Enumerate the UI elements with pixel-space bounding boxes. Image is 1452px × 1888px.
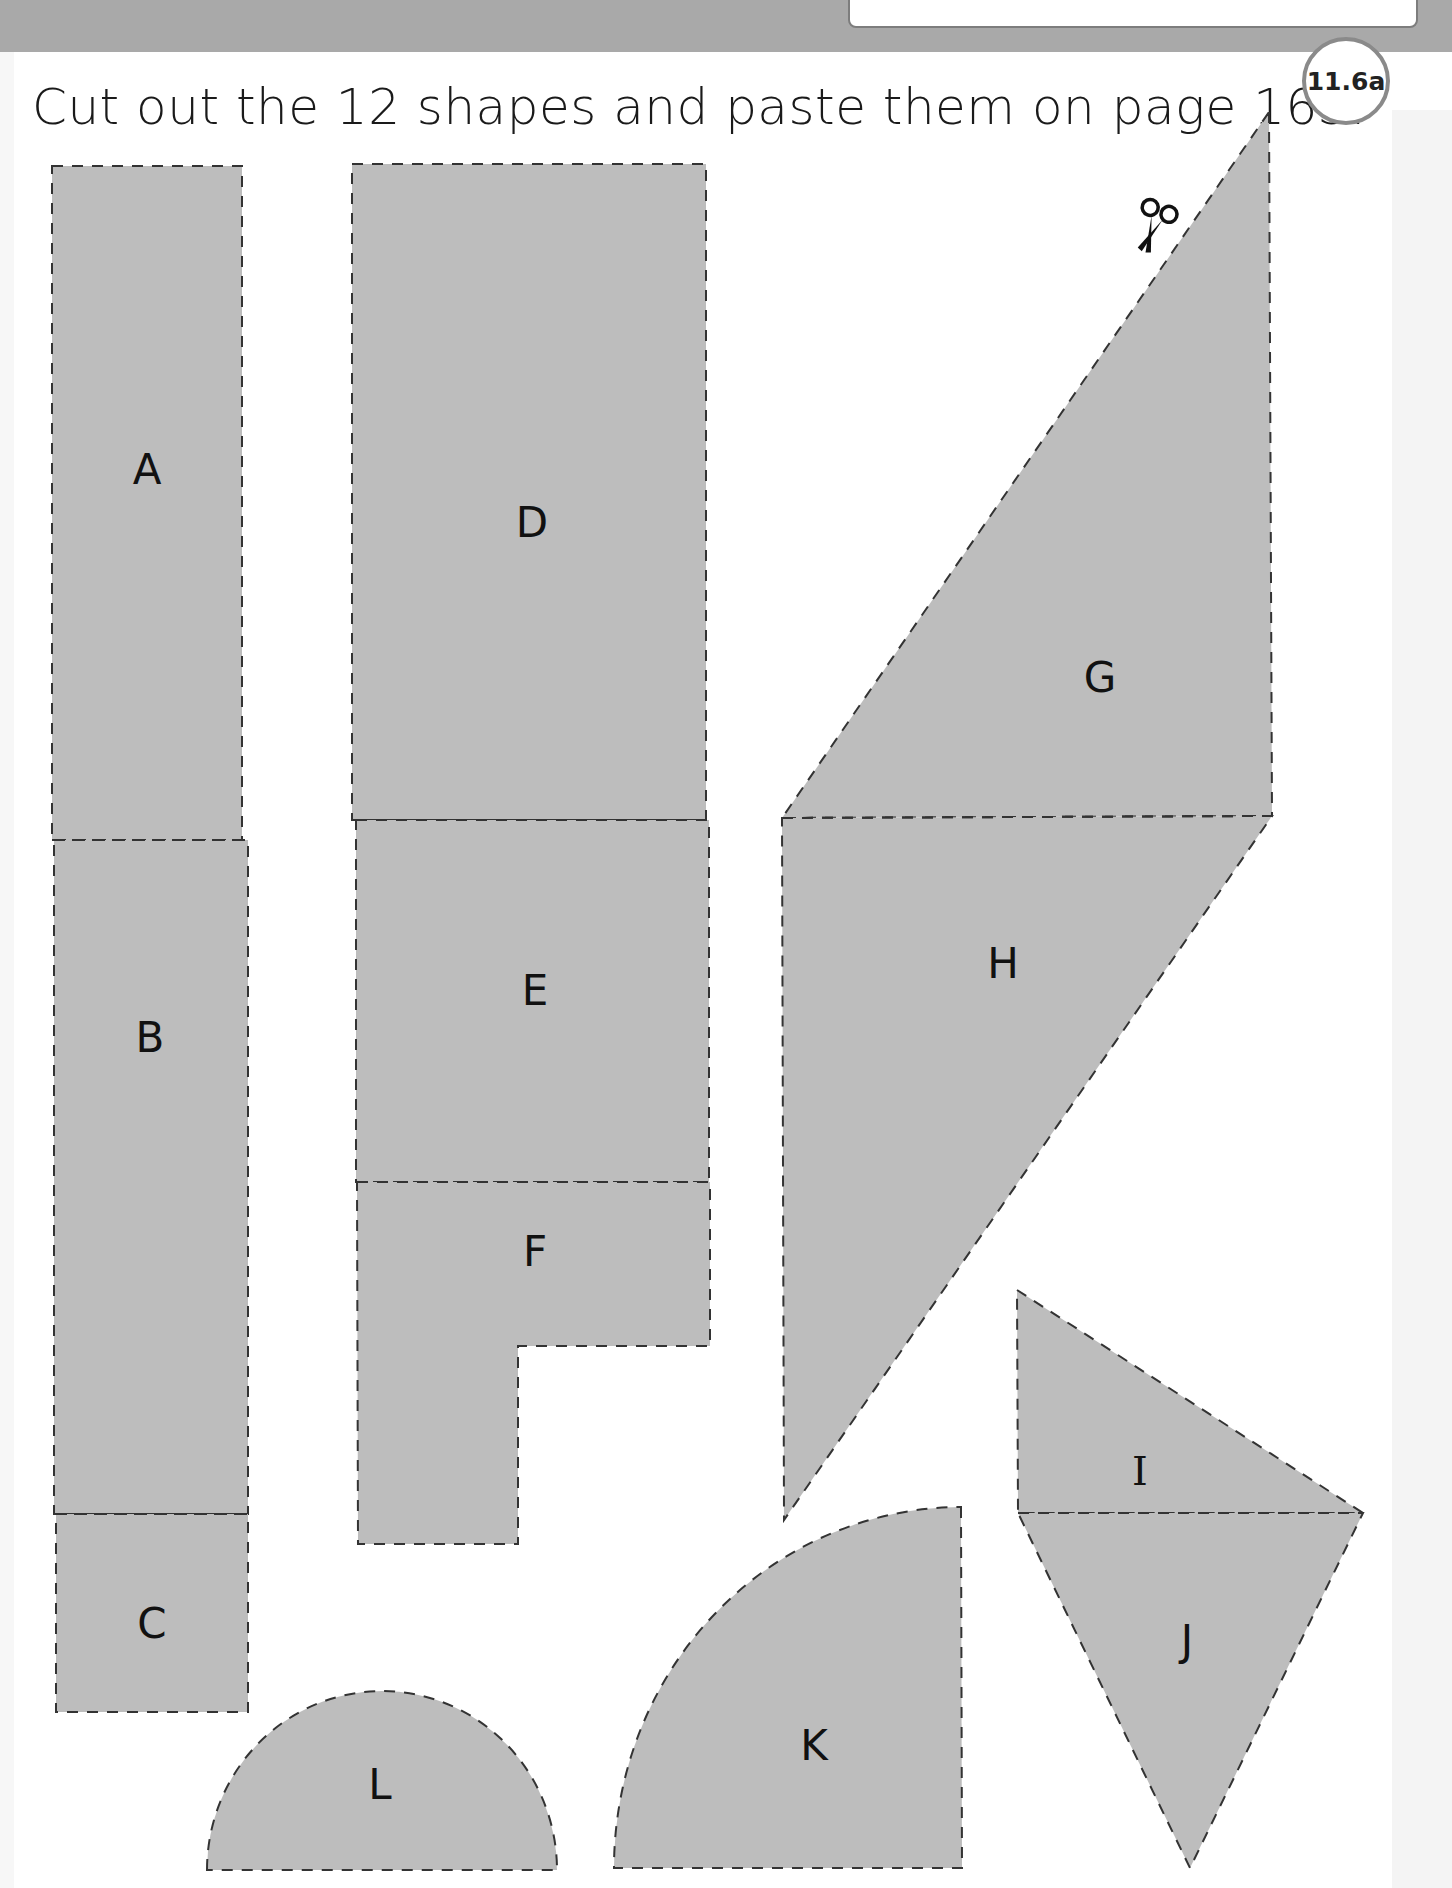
shape-c[interactable]: C xyxy=(56,1514,248,1712)
shape-label-g: G xyxy=(1084,653,1117,702)
shape-label-f: F xyxy=(523,1227,547,1276)
shape-label-k: K xyxy=(800,1721,829,1770)
shape-a[interactable]: A xyxy=(52,166,242,840)
shape-label-b: B xyxy=(136,1013,165,1062)
shape-f[interactable]: F xyxy=(357,1182,710,1544)
shape-label-e: E xyxy=(522,966,549,1015)
shape-label-l: L xyxy=(368,1760,392,1809)
shape-label-i: I xyxy=(1132,1448,1148,1494)
shape-k[interactable]: K xyxy=(614,1507,962,1868)
shape-b[interactable]: B xyxy=(54,840,248,1514)
shape-e[interactable]: E xyxy=(356,820,709,1182)
shape-g[interactable]: G xyxy=(782,112,1272,818)
shape-label-h: H xyxy=(987,939,1019,988)
shape-d[interactable]: D xyxy=(352,164,706,820)
shape-i[interactable]: I xyxy=(1017,1290,1363,1513)
shape-label-c: C xyxy=(137,1599,166,1648)
shape-label-j: J xyxy=(1178,1616,1193,1665)
shape-label-d: D xyxy=(516,498,548,547)
shape-l[interactable]: L xyxy=(207,1691,557,1870)
shape-j[interactable]: J xyxy=(1018,1513,1363,1868)
scissors-icon xyxy=(1128,197,1180,258)
shape-label-a: A xyxy=(133,445,162,494)
cutout-shapes: A B C D E F G H I xyxy=(0,0,1452,1888)
